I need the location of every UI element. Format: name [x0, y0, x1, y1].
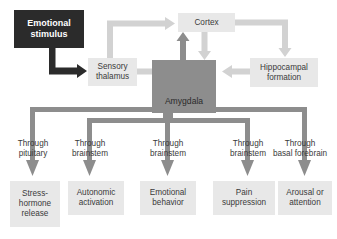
node-hippocampal-formation-label: Hippocampalformation	[250, 63, 318, 82]
node-output-pain-suppression[interactable]: Painsuppression	[213, 181, 275, 215]
node-cortex-label: Cortex	[178, 18, 235, 28]
node-output-autonomic-activation[interactable]: Autonomicactivation	[68, 181, 124, 215]
node-output-emotional-behavior-label: Emotionalbehavior	[140, 188, 196, 207]
node-output-arousal-or-attention-label: Arousal orattention	[278, 188, 332, 207]
node-output-emotional-behavior[interactable]: Emotionalbehavior	[140, 181, 196, 215]
connector-amygdala-to-cortex	[177, 32, 190, 60]
node-output-stress-hormone-release[interactable]: Stress-hormonerelease	[10, 181, 60, 227]
node-hippocampal-formation[interactable]: Hippocampalformation	[250, 58, 318, 87]
connector-thalamus-to-cortex	[107, 17, 175, 58]
diagram-canvas: Emotionalstimulus Sensorythalamus Cortex…	[0, 0, 337, 239]
node-output-arousal-or-attention[interactable]: Arousal orattention	[278, 181, 332, 215]
connector-stimulus-to-thalamus	[49, 48, 87, 78]
node-sensory-thalamus-label: Sensorythalamus	[88, 62, 137, 81]
node-cortex[interactable]: Cortex	[178, 13, 235, 32]
node-output-autonomic-activation-label: Autonomicactivation	[68, 188, 124, 207]
node-emotional-stimulus[interactable]: Emotionalstimulus	[14, 10, 84, 48]
node-amygdala[interactable]: Amygdala	[152, 60, 216, 113]
node-output-pain-suppression-label: Painsuppression	[213, 188, 275, 207]
connector-cortex-to-amygdala	[198, 32, 211, 60]
node-output-stress-hormone-release-label: Stress-hormonerelease	[10, 189, 60, 218]
connector-hippocampus-to-amygdala	[222, 65, 250, 78]
node-sensory-thalamus[interactable]: Sensorythalamus	[88, 58, 137, 86]
node-emotional-stimulus-label: Emotionalstimulus	[14, 18, 84, 39]
connector-cortex-to-hippocampus	[235, 20, 292, 58]
node-amygdala-label: Amygdala	[152, 96, 216, 106]
